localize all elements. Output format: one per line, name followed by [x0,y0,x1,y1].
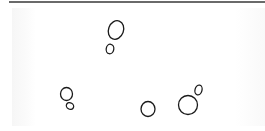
budding-cell-top [105,19,126,55]
mother-cell-outline [141,102,155,117]
budding-cell-bottom-left [61,88,75,111]
mother-cell-outline [106,19,127,42]
mother-cell-outline [61,88,73,101]
yeast-cell-figure [0,0,265,131]
mother-cell-outline [179,96,198,115]
bud-outline [194,84,203,95]
bud-outline [105,44,114,55]
single-cell-bottom-middle [141,102,155,117]
bud-outline [65,101,75,110]
budding-cell-bottom-right [179,84,204,114]
cells-drawing [0,0,265,131]
